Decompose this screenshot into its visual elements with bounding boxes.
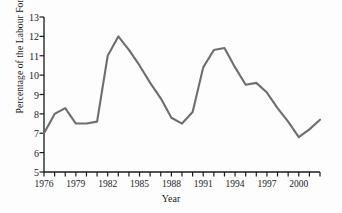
unemployment-line-chart: Percentage of the Labour Force 567891011… [0,0,342,213]
y-tick-label: 12 [29,31,39,42]
y-tick-label: 9 [34,89,39,100]
x-tick-label: 1985 [130,179,149,189]
y-axis-ticks [40,17,45,172]
x-tick-label: 1979 [66,179,85,189]
y-tick-label: 7 [34,128,39,139]
x-tick-label: 2000 [289,179,308,189]
y-axis-title: Percentage of the Labour Force [15,0,25,132]
x-tick-label: 1982 [98,179,117,189]
chart-svg [44,17,320,172]
y-tick-label: 11 [29,50,39,61]
plot-area: 5678910111213 19761979198219851988199119… [44,17,320,172]
y-tick-label: 8 [34,108,39,119]
x-axis-ticks [44,172,320,177]
x-tick-label: 1988 [162,179,181,189]
y-tick-label: 10 [29,70,39,81]
x-tick-label: 1991 [194,179,213,189]
x-tick-label: 1994 [226,179,245,189]
y-tick-label: 6 [34,147,39,158]
data-series-line [44,36,320,137]
x-tick-label: 1976 [35,179,54,189]
y-tick-label: 13 [29,12,39,23]
y-tick-label: 5 [34,167,39,178]
x-tick-label: 1997 [257,179,276,189]
x-axis-title: Year [0,193,342,204]
